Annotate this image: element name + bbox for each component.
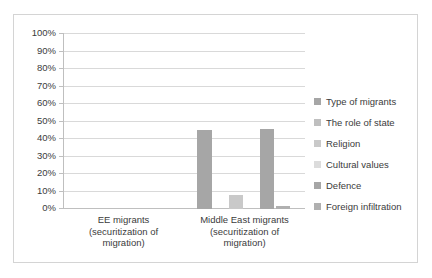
legend-swatch-icon [314,98,321,105]
bar [197,130,211,209]
gridline [63,121,305,122]
legend-item[interactable]: Cultural values [314,154,402,175]
legend-item[interactable]: Type of migrants [314,91,402,112]
legend-label: Cultural values [326,160,389,170]
y-axis-tick-label: 40% [14,133,56,143]
legend-swatch-icon [314,119,321,126]
legend-label: Foreign infiltration [326,202,402,212]
bar [260,129,274,210]
y-axis-tick-label: 70% [14,81,56,91]
legend: Type of migrantsThe role of stateReligio… [314,91,402,217]
legend-item[interactable]: Defence [314,175,402,196]
legend-swatch-icon [314,161,321,168]
y-axis-tick-label: 0% [14,203,56,213]
legend-swatch-icon [314,140,321,147]
bar [229,195,243,209]
y-axis-tick-label: 80% [14,63,56,73]
legend-label: Defence [326,181,361,191]
bar [276,206,290,210]
legend-item[interactable]: Religion [314,133,402,154]
legend-item[interactable]: The role of state [314,112,402,133]
y-axis-tick-label: 20% [14,168,56,178]
y-axis-tick-label: 30% [14,151,56,161]
x-axis-category-label: Middle East migrants (securitization of … [184,214,305,249]
legend-label: The role of state [326,118,395,128]
legend-swatch-icon [314,182,321,189]
gridline [63,33,305,34]
x-axis-category-label: EE migrants (securitization of migration… [63,214,184,249]
y-axis-tick-label: 10% [14,186,56,196]
plot-area [63,33,305,209]
gridline [63,68,305,69]
y-axis-tick-label: 60% [14,98,56,108]
chart-frame: 100%90%80%70%60%50%40%30%20%10%0% EE mig… [13,14,418,263]
y-axis-tick-label: 90% [14,46,56,56]
y-axis-line [63,33,64,209]
y-axis-tick-label: 50% [14,116,56,126]
legend-item[interactable]: Foreign infiltration [314,196,402,217]
legend-swatch-icon [314,203,321,210]
gridline [63,103,305,104]
gridline [63,86,305,87]
gridline [63,51,305,52]
legend-label: Type of migrants [326,97,396,107]
y-axis-tick-label: 100% [14,28,56,38]
legend-label: Religion [326,139,360,149]
